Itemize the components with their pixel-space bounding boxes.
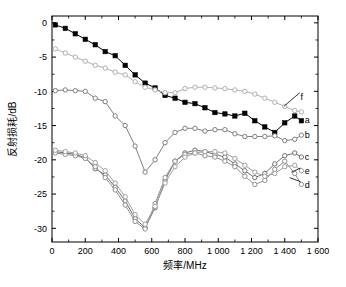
marker-f bbox=[123, 73, 127, 77]
marker-a bbox=[133, 73, 137, 77]
marker-b bbox=[173, 130, 177, 134]
marker-a bbox=[73, 32, 77, 36]
marker-e bbox=[253, 170, 257, 174]
marker-f bbox=[63, 51, 67, 55]
x-tick-label: 1 000 bbox=[207, 246, 230, 256]
marker-b bbox=[113, 114, 117, 118]
reflection-loss-chart: 02004006008001 0001 2001 4001 6000-5-10-… bbox=[0, 0, 346, 287]
marker-d bbox=[293, 171, 297, 175]
marker-d bbox=[299, 182, 303, 186]
marker-a bbox=[203, 106, 207, 110]
series-label-d: d bbox=[305, 180, 310, 190]
y-tick-label: -5 bbox=[39, 52, 47, 62]
marker-e bbox=[293, 163, 297, 167]
marker-d bbox=[283, 159, 287, 163]
y-tick-label: -20 bbox=[34, 155, 47, 165]
marker-a bbox=[233, 114, 237, 118]
marker-b bbox=[183, 126, 187, 130]
marker-f bbox=[73, 55, 77, 59]
series-label-a: a bbox=[305, 115, 310, 125]
marker-d bbox=[233, 164, 237, 168]
marker-f bbox=[243, 89, 247, 93]
x-tick-label: 1 400 bbox=[273, 246, 296, 256]
marker-f bbox=[83, 59, 87, 63]
marker-e bbox=[193, 151, 197, 155]
x-tick-label: 1 200 bbox=[240, 246, 263, 256]
marker-e bbox=[163, 181, 167, 185]
leader-line bbox=[284, 93, 300, 107]
marker-d bbox=[123, 203, 127, 207]
marker-d bbox=[163, 175, 167, 179]
marker-d bbox=[243, 174, 247, 178]
marker-e bbox=[223, 151, 227, 155]
marker-d bbox=[253, 182, 257, 186]
series-f bbox=[53, 47, 303, 114]
y-tick-label: -10 bbox=[34, 87, 47, 97]
series-line-d bbox=[55, 153, 301, 229]
marker-d bbox=[133, 219, 137, 223]
marker-e bbox=[53, 148, 57, 152]
marker-b bbox=[253, 134, 257, 138]
marker-d bbox=[223, 159, 227, 163]
marker-f bbox=[193, 85, 197, 89]
y-tick-label: 0 bbox=[42, 18, 47, 28]
marker-f bbox=[183, 86, 187, 90]
marker-b bbox=[203, 129, 207, 133]
marker-e bbox=[73, 151, 77, 155]
marker-a bbox=[63, 26, 67, 30]
series-line-e bbox=[55, 150, 301, 224]
marker-f bbox=[93, 63, 97, 67]
marker-c bbox=[299, 155, 303, 159]
marker-f bbox=[113, 70, 117, 74]
marker-b bbox=[193, 126, 197, 130]
x-tick-label: 0 bbox=[49, 246, 54, 256]
marker-a bbox=[263, 125, 267, 129]
marker-e bbox=[103, 169, 107, 173]
y-tick-label: -30 bbox=[34, 224, 47, 234]
marker-e bbox=[173, 164, 177, 168]
marker-c bbox=[293, 151, 297, 155]
marker-e bbox=[203, 149, 207, 153]
marker-a bbox=[223, 112, 227, 116]
marker-d bbox=[213, 155, 217, 159]
marker-e bbox=[93, 160, 97, 164]
x-axis-title: 频率/MHz bbox=[163, 259, 206, 271]
marker-b bbox=[53, 88, 57, 92]
marker-a bbox=[193, 101, 197, 105]
marker-b bbox=[263, 134, 267, 138]
marker-a bbox=[293, 114, 297, 118]
marker-d bbox=[113, 188, 117, 192]
marker-a bbox=[173, 96, 177, 100]
marker-a bbox=[113, 54, 117, 58]
series-c bbox=[53, 148, 303, 230]
marker-f bbox=[143, 85, 147, 89]
marker-e bbox=[153, 204, 157, 208]
marker-b bbox=[133, 144, 137, 148]
series-e bbox=[53, 148, 303, 226]
marker-b bbox=[93, 96, 97, 100]
marker-e bbox=[143, 222, 147, 226]
marker-e bbox=[123, 195, 127, 199]
marker-b bbox=[213, 127, 217, 131]
marker-a bbox=[183, 100, 187, 104]
marker-b bbox=[153, 158, 157, 162]
marker-f bbox=[163, 91, 167, 95]
marker-a bbox=[283, 121, 287, 125]
marker-b bbox=[299, 133, 303, 137]
marker-d bbox=[103, 175, 107, 179]
marker-f bbox=[173, 91, 177, 95]
series-b bbox=[53, 88, 303, 175]
series-label-f: f bbox=[301, 92, 304, 102]
y-axis-title: 反射损耗/dB bbox=[6, 101, 18, 156]
marker-e bbox=[63, 149, 67, 153]
marker-f bbox=[133, 80, 137, 84]
marker-f bbox=[213, 86, 217, 90]
marker-b bbox=[283, 138, 287, 142]
marker-b bbox=[73, 88, 77, 92]
marker-b bbox=[243, 134, 247, 138]
marker-c bbox=[273, 162, 277, 166]
marker-f bbox=[253, 92, 257, 96]
marker-a bbox=[213, 110, 217, 114]
series-line-f bbox=[55, 49, 301, 112]
marker-c bbox=[253, 175, 257, 179]
